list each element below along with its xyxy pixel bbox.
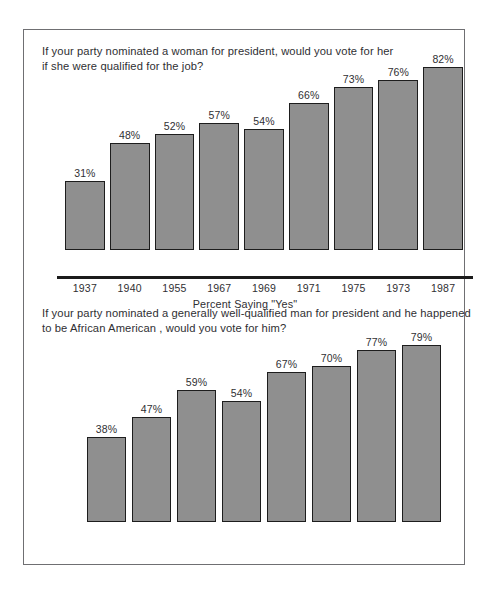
bar-slot: 73% (334, 58, 374, 250)
bar (402, 345, 441, 522)
bar-value-label: 77% (366, 336, 387, 348)
bar-value-label: 79% (411, 331, 432, 343)
bar-slot: 54% (222, 332, 261, 522)
bar-slot: 67% (267, 332, 306, 522)
bar (132, 417, 171, 522)
bar-slot: 52% (155, 58, 195, 250)
bar (312, 366, 351, 522)
bar (87, 437, 126, 522)
chart-title-line: If your party nominated a woman for pres… (42, 44, 442, 59)
bar-slot: 38% (87, 332, 126, 522)
bar (289, 103, 329, 250)
bar-group-african-american: 38%47%59%54%67%70%77%79% (24, 332, 466, 522)
bar (334, 87, 374, 250)
bar-slot: 77% (357, 332, 396, 522)
chart-panel-african-american: If your party nominated a generally well… (24, 292, 466, 565)
bar-slot: 47% (132, 332, 171, 522)
bar-value-label: 76% (388, 66, 409, 78)
bar (267, 372, 306, 522)
bar-value-label: 38% (96, 423, 117, 435)
bar-value-label: 48% (119, 129, 140, 141)
bar (378, 80, 418, 250)
chart-title-line: If your party nominated a generally well… (42, 306, 442, 321)
bar-value-label: 67% (276, 358, 297, 370)
chart-title-african-american: If your party nominated a generally well… (42, 306, 442, 335)
bar-slot: 48% (110, 58, 150, 250)
bar (244, 129, 284, 250)
plot-area-african-american: 38%47%59%54%67%70%77%79% (24, 332, 466, 522)
bar-slot: 82% (423, 58, 463, 250)
bar (423, 67, 463, 250)
bar (222, 401, 261, 522)
bar-slot: 57% (199, 58, 239, 250)
bar-value-label: 54% (253, 115, 274, 127)
bar-slot: 76% (378, 58, 418, 250)
bar (177, 390, 216, 522)
bar-value-label: 59% (186, 376, 207, 388)
bar-value-label: 66% (298, 89, 319, 101)
bar-value-label: 47% (141, 403, 162, 415)
bar-slot: 31% (65, 58, 105, 250)
bar-value-label: 54% (231, 387, 252, 399)
bar-value-label: 82% (432, 53, 453, 65)
plot-area-women: 31%48%52%57%54%66%73%76%82% (24, 58, 466, 250)
bar-group-women: 31%48%52%57%54%66%73%76%82% (24, 58, 466, 250)
bar-value-label: 31% (74, 167, 95, 179)
bar-value-label: 57% (209, 109, 230, 121)
bar (110, 143, 150, 250)
x-axis-line-women (57, 276, 473, 279)
bar-slot: 54% (244, 58, 284, 250)
bar (65, 181, 105, 250)
bar-value-label: 52% (164, 120, 185, 132)
bar-value-label: 70% (321, 352, 342, 364)
chart-panel-women: If your party nominated a woman for pres… (24, 30, 466, 292)
bar-slot: 66% (289, 58, 329, 250)
bar-slot: 59% (177, 332, 216, 522)
bar (155, 134, 195, 250)
bar-slot: 70% (312, 332, 351, 522)
bar-slot: 79% (402, 332, 441, 522)
figure-page: If your party nominated a woman for pres… (23, 29, 465, 565)
bar (199, 123, 239, 250)
bar-value-label: 73% (343, 73, 364, 85)
bar (357, 350, 396, 522)
